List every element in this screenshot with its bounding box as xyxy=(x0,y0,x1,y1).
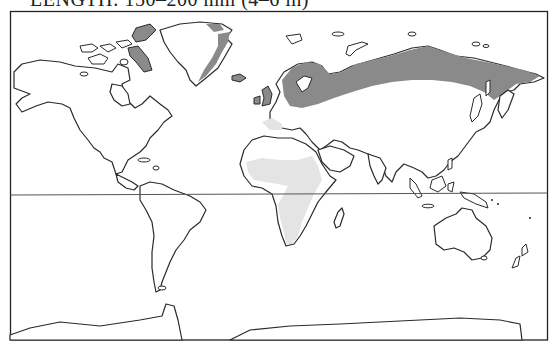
caribbean-island xyxy=(138,158,150,162)
arctic-island xyxy=(116,40,132,48)
arctic-island-breeding xyxy=(128,46,152,72)
arctic-island xyxy=(88,54,108,64)
central-america xyxy=(116,174,138,190)
novaya-zemlya xyxy=(346,42,368,56)
pacific-island xyxy=(529,217,531,219)
arctic-island xyxy=(332,32,344,36)
arctic-island xyxy=(408,32,416,36)
new-zealand xyxy=(522,244,528,256)
africa-wintering xyxy=(246,156,322,244)
iceland xyxy=(232,74,246,82)
australia xyxy=(434,208,492,260)
sulawesi xyxy=(448,182,454,192)
java xyxy=(422,204,434,208)
arctic-island xyxy=(80,72,88,76)
tierra-del-fuego xyxy=(158,286,166,290)
borneo xyxy=(430,176,446,192)
antarctica xyxy=(10,304,182,340)
arctic-island-breeding xyxy=(132,24,156,42)
arctic-island xyxy=(80,44,98,52)
philippines xyxy=(448,158,452,170)
madagascar xyxy=(334,208,344,228)
tasmania xyxy=(481,256,487,260)
north-america xyxy=(14,60,172,174)
ireland xyxy=(254,96,260,104)
wrangel-island xyxy=(483,45,489,48)
antarctica xyxy=(230,318,522,340)
pacific-island xyxy=(497,203,499,205)
svalbard xyxy=(286,34,302,44)
new-zealand xyxy=(512,256,520,268)
new-siberian-islands xyxy=(472,42,480,46)
sumatra xyxy=(410,178,422,198)
range-map xyxy=(0,0,552,349)
south-america xyxy=(140,182,206,292)
caribbean-island xyxy=(153,166,159,170)
new-guinea xyxy=(460,192,488,208)
arctic-island xyxy=(120,59,128,65)
pacific-island xyxy=(491,199,493,201)
arctic-island xyxy=(100,44,116,52)
greenland xyxy=(160,22,232,86)
great-britain xyxy=(262,86,272,106)
